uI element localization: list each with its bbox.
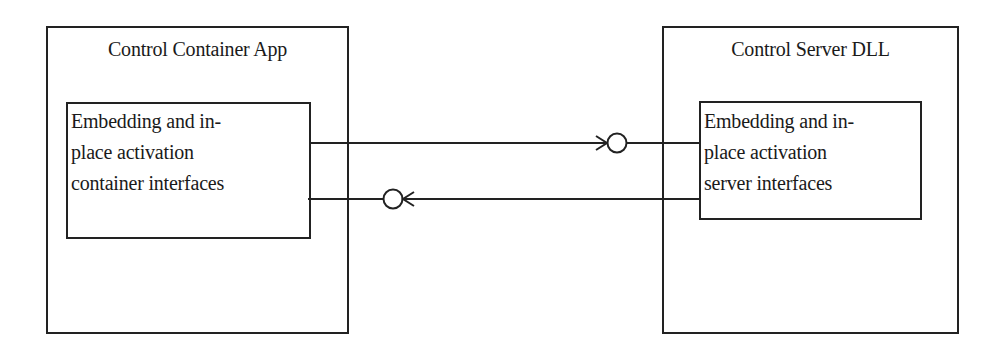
server-interfaces-line-1: Embedding and in- (704, 106, 854, 137)
container-interfaces-line-1: Embedding and in- (71, 106, 221, 137)
connector-container-to-server (310, 134, 700, 153)
server-interfaces-line-2: place activation (704, 137, 827, 168)
container-interfaces-line-2: place activation (71, 137, 194, 168)
container-interfaces-line-3: container interfaces (71, 168, 224, 199)
container-app-title: Control Container App (47, 34, 348, 65)
server-interfaces-line-3: server interfaces (704, 168, 832, 199)
connector-server-to-container (308, 190, 700, 209)
interface-lollipop-icon (608, 134, 627, 153)
interface-lollipop-icon (384, 190, 403, 209)
server-dll-title: Control Server DLL (663, 34, 958, 65)
